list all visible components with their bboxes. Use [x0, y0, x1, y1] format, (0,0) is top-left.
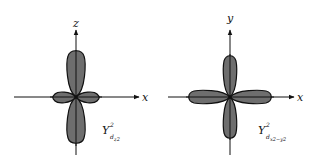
y-axis-label: y	[226, 12, 234, 25]
origin	[228, 95, 232, 99]
dx2y2-label: Y 2 d x2−y2	[258, 121, 286, 143]
x-axis-label: x	[297, 91, 304, 104]
svg-text:2: 2	[265, 121, 270, 128]
z-axis-label: z	[72, 17, 79, 30]
dx2y2-figure: y x Y 2 d x2−y2	[168, 12, 304, 155]
origin	[74, 95, 78, 99]
svg-text:z2: z2	[113, 136, 120, 142]
x-axis-label: x	[142, 91, 149, 104]
dz2-label: Y 2 d z2	[102, 121, 120, 142]
orbital-diagram: z x Y 2 d z2 y x Y 2 d x2−y2	[0, 0, 312, 163]
svg-text:2: 2	[109, 121, 114, 128]
dz2-figure: z x Y 2 d z2	[14, 17, 149, 155]
svg-text:x2−y2: x2−y2	[270, 136, 286, 143]
